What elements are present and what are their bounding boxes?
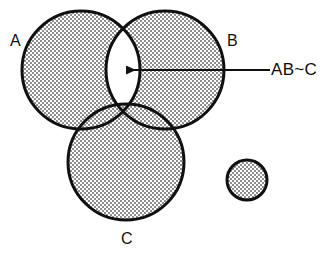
isolated-circle: [227, 160, 267, 200]
set-label-a: A: [10, 33, 21, 49]
venn-diagram-figure: A B C AB~C: [0, 0, 336, 253]
set-label-b: B: [227, 33, 238, 49]
venn-diagram-canvas: [0, 0, 336, 253]
set-label-c: C: [121, 231, 133, 247]
annotation-label: AB~C: [271, 61, 317, 78]
